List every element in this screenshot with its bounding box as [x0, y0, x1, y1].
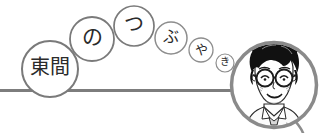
bubble-text-2: の [70, 27, 114, 48]
bubble-text-3: つ [114, 14, 154, 34]
banner-canvas: 東間 の つ ぶ や き [0, 0, 321, 133]
author-portrait [231, 34, 319, 131]
bubble-text-6: き [215, 57, 235, 67]
bubble-text-1: 東間 [22, 57, 78, 77]
bubble-text-5: や [189, 43, 214, 56]
bubble-text-4: ぶ [155, 29, 187, 45]
portrait-tail-curve [296, 122, 303, 133]
